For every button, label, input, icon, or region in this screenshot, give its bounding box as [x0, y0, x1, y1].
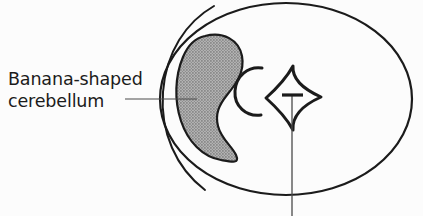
cerebellum-annotation-label: Banana-shaped cerebellum: [8, 68, 133, 113]
figure-root: Banana-shaped cerebellum: [0, 0, 423, 216]
cerebellum-crescent: [176, 35, 242, 162]
diamond-star-structure: [266, 66, 321, 130]
annotation-label-line-2: cerebellum: [8, 90, 133, 112]
annotation-label-line-1: Banana-shaped: [8, 68, 133, 90]
